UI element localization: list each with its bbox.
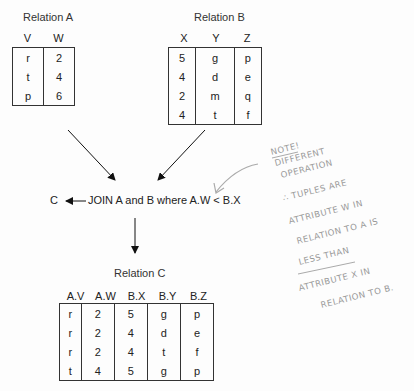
arrow-a-to-join xyxy=(68,130,115,180)
result-name-c: C xyxy=(50,194,58,206)
relation-c-col-bx: B.X xyxy=(121,290,152,302)
cell: r xyxy=(60,304,82,324)
cell: p xyxy=(180,361,213,381)
relation-c-col-by: B.Y xyxy=(152,290,183,302)
cell: 2 xyxy=(81,304,114,324)
cell: r xyxy=(60,323,82,342)
cell: 4 xyxy=(114,342,147,361)
cell: f xyxy=(180,342,213,361)
cell: 5 xyxy=(114,304,147,324)
table-row: t45gp xyxy=(60,361,214,381)
cell: p xyxy=(180,304,213,324)
relation-c-col-aw: A.W xyxy=(90,290,121,302)
cell: e xyxy=(180,323,213,342)
relation-c-table: r25gp r24de r24tf t45gp xyxy=(59,303,214,381)
join-expression: JOIN A and B where A.W < B.X xyxy=(88,194,241,206)
table-row: r24tf xyxy=(60,342,214,361)
cell: 5 xyxy=(114,361,147,381)
cell: 2 xyxy=(81,342,114,361)
cell: r xyxy=(60,342,82,361)
cell: 2 xyxy=(81,323,114,342)
pencil-arrow xyxy=(216,164,258,192)
cell: t xyxy=(60,361,82,381)
relation-c-title: Relation C xyxy=(114,267,165,279)
relation-c-col-bz: B.Z xyxy=(183,290,214,302)
table-row: r25gp xyxy=(60,304,214,324)
cell: t xyxy=(147,342,180,361)
cell: g xyxy=(147,304,180,324)
table-row: r24de xyxy=(60,323,214,342)
cell: 4 xyxy=(81,361,114,381)
cell: g xyxy=(147,361,180,381)
cell: d xyxy=(147,323,180,342)
relation-c-col-av: A.V xyxy=(60,290,91,302)
cell: 4 xyxy=(114,323,147,342)
arrow-b-to-join xyxy=(158,130,205,180)
